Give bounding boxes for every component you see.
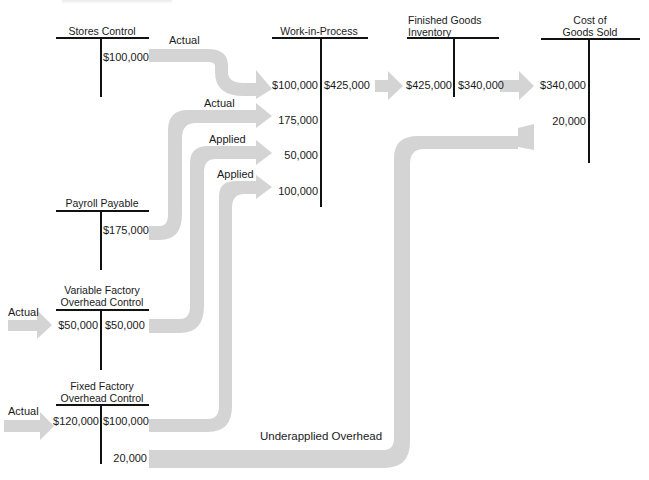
flow-label-ffoh-applied: Applied	[217, 168, 254, 181]
arrow-stores-to-wip	[149, 49, 272, 99]
ffoh-debit-1: $120,000	[40, 415, 99, 428]
t-account-divider	[100, 405, 102, 464]
account-title-payroll-payable: Payroll Payable	[56, 197, 148, 209]
ffoh-credit-2: 20,000	[103, 452, 147, 465]
t-account-divider	[588, 39, 590, 163]
account-title-fixed-foh-line2: Overhead Control	[52, 392, 152, 404]
flow-label-underapplied: Underapplied Overhead	[260, 430, 382, 443]
account-title-variable-foh-line1: Variable Factory	[52, 284, 152, 296]
t-account-rule	[56, 210, 149, 212]
arrow-underapplied-to-cogs	[149, 124, 534, 468]
flow-label-payroll-actual: Actual	[204, 97, 235, 110]
account-title-cogs-line1: Cost of	[540, 14, 640, 26]
wip-credit-1: $425,000	[324, 79, 370, 92]
t-account-rule	[56, 309, 149, 311]
flow-label-vfoh-applied: Applied	[209, 133, 246, 146]
arrow-wip-to-fg	[375, 71, 403, 100]
t-account-divider	[100, 38, 102, 97]
account-title-fg-line1: Finished Goods	[408, 14, 508, 26]
account-title-stores-control: Stores Control	[56, 25, 148, 37]
flow-arrows	[0, 0, 649, 480]
wip-debit-2: 175,000	[266, 114, 318, 127]
t-account-divider	[100, 310, 102, 370]
t-account-divider	[453, 38, 455, 97]
t-account-rule	[56, 37, 149, 39]
flow-label-stores-actual: Actual	[169, 34, 200, 47]
flow-label-vfoh-actual-in: Actual	[8, 306, 39, 319]
account-title-wip: Work-in-Process	[272, 25, 366, 37]
wip-debit-4: 100,000	[266, 185, 318, 198]
payroll-credit-1: $175,000	[103, 224, 149, 237]
account-title-variable-foh-line2: Overhead Control	[52, 296, 152, 308]
t-account-divider	[100, 211, 102, 270]
t-account-rule	[56, 404, 149, 406]
cogs-debit-1: $340,000	[536, 79, 586, 92]
account-title-fixed-foh-line1: Fixed Factory	[52, 380, 152, 392]
fg-credit-1: $340,000	[458, 79, 504, 92]
stores-credit-1: $100,000	[103, 51, 149, 64]
t-account-rule	[541, 38, 640, 40]
wip-debit-3: 50,000	[266, 149, 318, 162]
account-title-cogs-line2: Goods Sold	[540, 26, 640, 38]
vfoh-credit-1: $50,000	[105, 319, 145, 332]
vfoh-debit-1: $50,000	[48, 319, 98, 332]
flow-label-ffoh-actual-in: Actual	[8, 405, 39, 418]
wip-debit-1: $100,000	[266, 79, 318, 92]
arrow-fg-to-cogs	[500, 71, 534, 100]
ffoh-credit-1: $100,000	[103, 415, 149, 428]
t-account-divider	[320, 38, 322, 207]
fg-debit-1: $425,000	[405, 79, 452, 92]
arrow-ffoh-to-wip	[149, 175, 272, 432]
cogs-debit-2: 20,000	[536, 115, 586, 128]
